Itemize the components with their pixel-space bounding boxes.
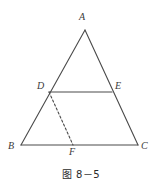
geometry-figure: A D E B C F 图 8－5 bbox=[0, 0, 162, 195]
vertex-label-a: A bbox=[79, 12, 85, 22]
figure-caption: 图 8－5 bbox=[0, 169, 162, 181]
vertex-label-c: C bbox=[141, 141, 148, 151]
segment-AB bbox=[21, 30, 85, 145]
vertex-label-b: B bbox=[8, 141, 14, 151]
geometry-diagram bbox=[0, 0, 162, 195]
vertex-label-d: D bbox=[37, 81, 44, 91]
vertex-label-f: F bbox=[69, 147, 75, 157]
segment-DF-dashed bbox=[49, 92, 73, 145]
segment-AC bbox=[85, 30, 138, 145]
vertex-label-e: E bbox=[115, 81, 121, 91]
